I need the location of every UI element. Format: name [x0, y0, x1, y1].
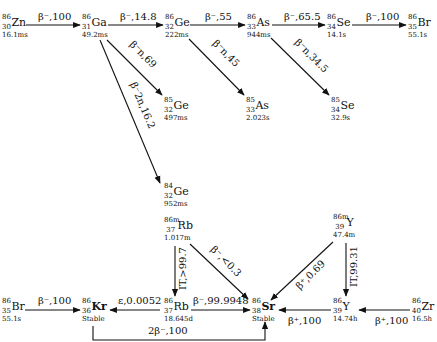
element-symbol: Y — [347, 217, 354, 228]
atomic-number: 40 — [412, 308, 421, 315]
element-symbol: Y — [342, 301, 349, 312]
element-symbol: Kr — [91, 301, 106, 312]
mass-number: 86 — [252, 298, 261, 305]
mass-number: 86 — [327, 14, 336, 21]
mass-number: 86 — [82, 14, 91, 21]
mass-number: 86 — [2, 298, 11, 305]
mass-number: 86 — [164, 298, 173, 305]
half-life: Stable — [82, 316, 105, 323]
label-as86-se85: β⁻n,34.5 — [293, 37, 331, 75]
atomic-number: 32 — [164, 107, 173, 114]
element-symbol: As — [255, 100, 269, 111]
element-symbol: Br — [417, 17, 430, 28]
mass-number: 86 — [408, 14, 417, 21]
label-br86-kr86: β⁻,100 — [38, 295, 71, 306]
half-life: 14.1s — [327, 32, 346, 39]
half-life: 16.1ms — [2, 32, 28, 39]
half-life: Stable — [252, 316, 275, 323]
decay-arrows-layer: β⁻,100 β⁻,14.8 β⁻,55 β⁻,65.5 β⁻,100 β⁻n,… — [0, 0, 437, 342]
element-symbol: Zr — [421, 301, 434, 312]
label-kr86-sr86: 2β⁻,100 — [148, 325, 188, 336]
atomic-number: 37 — [166, 227, 175, 234]
label-ge86-as85: β⁻n,45 — [211, 38, 242, 69]
half-life: 952ms — [164, 201, 188, 208]
mass-number: 85 — [164, 97, 173, 104]
label-y86-sr86: β⁺,100 — [288, 315, 321, 326]
atomic-number: 36 — [82, 308, 91, 315]
label-as86-se86: β⁻,65.5 — [284, 11, 321, 22]
element-symbol: Zn — [11, 17, 26, 28]
atomic-number: 34 — [327, 24, 336, 31]
label-ga86-ge86: β⁻,14.8 — [120, 11, 157, 22]
label-rb86m-sr86: β⁻,<0.3 — [209, 244, 244, 279]
element-symbol: Se — [336, 17, 350, 28]
mass-number: 86 — [2, 14, 11, 21]
half-life: 49.2ms — [82, 32, 108, 39]
label-ge86-as86: β⁻,55 — [205, 11, 232, 22]
label-ga86-ge84: β⁻2n,16.2 — [128, 80, 157, 130]
element-symbol: Ge — [173, 186, 188, 197]
element-symbol: Rb — [178, 220, 193, 231]
atomic-number: 35 — [408, 24, 417, 31]
element-symbol: Ga — [91, 17, 106, 28]
half-life: 55.1s — [2, 316, 21, 323]
label-rb86m-rb86: IT,>99.7 — [177, 247, 188, 290]
element-symbol: As — [256, 17, 270, 28]
atomic-number: 37 — [164, 308, 173, 315]
atomic-number: 34 — [331, 107, 340, 114]
mass-number: 85 — [331, 97, 340, 104]
element-symbol: Sr — [261, 301, 275, 312]
atomic-number: 33 — [247, 24, 256, 31]
atomic-number: 35 — [2, 308, 11, 315]
element-symbol: Rb — [173, 301, 188, 312]
label-se86-br86: β⁻,100 — [366, 11, 399, 22]
mass-number: 86 — [165, 14, 174, 21]
atomic-number: 39 — [333, 308, 342, 315]
atomic-number: 39 — [335, 224, 344, 231]
half-life: 14.74h — [333, 316, 358, 323]
label-rb86-kr86: ε,0.0052 — [118, 295, 161, 306]
half-life: 16.5h — [412, 316, 432, 323]
element-symbol: Se — [340, 100, 354, 111]
half-life: 32.9s — [331, 115, 350, 122]
element-symbol: Ge — [173, 100, 188, 111]
mass-number: 85 — [246, 97, 255, 104]
half-life: 55.1s — [408, 32, 427, 39]
half-life: 1.017m — [164, 235, 191, 242]
half-life: 18.645d — [164, 316, 193, 323]
arrow-y86m-sr86 — [271, 242, 333, 300]
atomic-number: 33 — [246, 107, 255, 114]
element-symbol: Br — [11, 301, 24, 312]
half-life: 497ms — [164, 115, 188, 122]
half-life: 222ms — [165, 32, 189, 39]
atomic-number: 32 — [164, 193, 173, 200]
half-life: 2.023s — [246, 115, 270, 122]
decay-chain-diagram: β⁻,100 β⁻,14.8 β⁻,55 β⁻,65.5 β⁻,100 β⁻n,… — [0, 0, 437, 342]
mass-number: 86 — [82, 298, 91, 305]
half-life: 47.4m — [333, 232, 355, 239]
atomic-number: 31 — [82, 24, 91, 31]
half-life: 944ms — [247, 32, 271, 39]
label-y86m-y86: IT,99.31 — [348, 246, 359, 287]
mass-number: 86 — [247, 14, 256, 21]
mass-number: 84 — [164, 183, 173, 190]
label-zn86-ga86: β⁻,100 — [38, 11, 71, 22]
mass-number: 86 — [412, 298, 421, 305]
atomic-number: 38 — [252, 308, 261, 315]
label-rb86-sr86: β⁻,99.9948 — [193, 295, 249, 306]
atomic-number: 32 — [165, 24, 174, 31]
element-symbol: Ge — [174, 17, 189, 28]
mass-number: 86 — [333, 298, 342, 305]
label-zr86-y86: β⁺,100 — [375, 315, 408, 326]
atomic-number: 30 — [2, 24, 11, 31]
